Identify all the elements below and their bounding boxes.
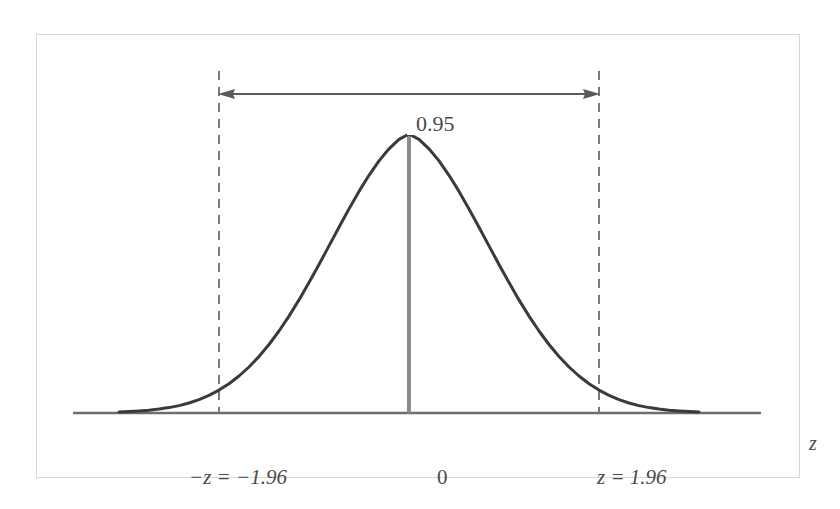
confidence-level-label: 0.95 [407, 113, 464, 135]
right-critical-value-label: z = 1.96 [597, 467, 667, 488]
normal-distribution-plot [37, 35, 801, 479]
center-value-label: 0 [437, 467, 448, 488]
x-axis-label: z [809, 433, 817, 453]
confidence-arrow-head-left [218, 89, 235, 99]
figure-container: 0.95 −z = −1.96 0 z = 1.96 z [0, 0, 840, 509]
figure-frame: 0.95 −z = −1.96 0 z = 1.96 z [36, 34, 800, 478]
left-critical-value-label: −z = −1.96 [189, 467, 287, 488]
confidence-arrow-head-right [583, 89, 600, 99]
